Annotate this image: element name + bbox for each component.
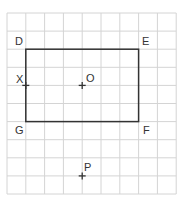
point-marks <box>22 82 85 179</box>
label-O: O <box>86 72 95 84</box>
grid-lines <box>7 13 176 194</box>
label-E: E <box>142 35 149 47</box>
label-F: F <box>143 124 150 136</box>
label-X: X <box>16 73 24 85</box>
grid-diagram: D E F G X O P <box>0 0 180 207</box>
label-D: D <box>15 35 23 47</box>
label-G: G <box>15 124 24 136</box>
label-P: P <box>84 161 91 173</box>
